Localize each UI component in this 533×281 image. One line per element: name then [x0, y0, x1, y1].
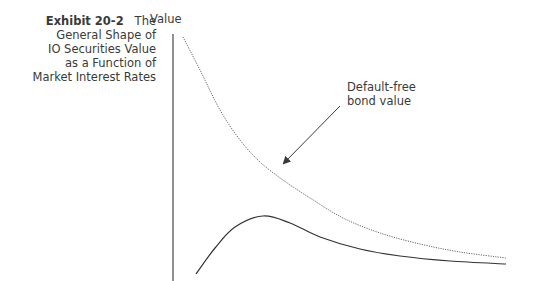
chart-canvas	[0, 0, 533, 281]
default-free-bond-curve	[183, 37, 506, 258]
io-value-curve	[196, 216, 506, 274]
annotation-arrow	[284, 106, 340, 163]
